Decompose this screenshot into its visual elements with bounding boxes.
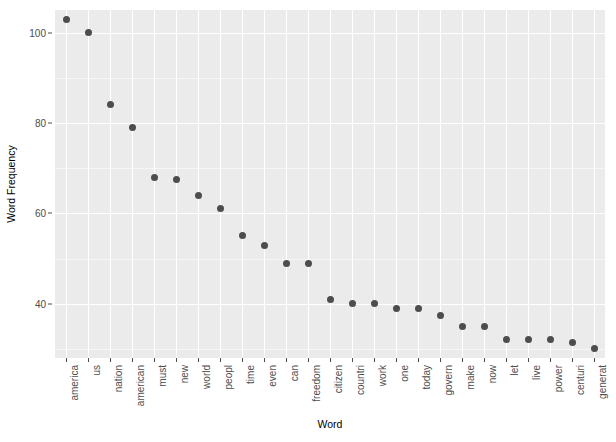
data-point [371,300,378,307]
x-tick-mark [550,358,551,362]
gridline-major-vertical [110,10,111,358]
x-tick-mark [506,358,507,362]
x-tick-label: let [510,365,520,376]
x-axis: americausnationamericanmustnewworldpeopl… [55,358,605,418]
x-tick-label: one [400,365,410,382]
gridline-major-vertical [198,10,199,358]
x-tick-label: peopl [224,365,234,389]
gridline-major-vertical [154,10,155,358]
x-tick-mark [308,358,309,362]
gridline-major-vertical [220,10,221,358]
x-tick-mark [396,358,397,362]
x-tick-label: make [466,365,476,389]
x-tick-label: can [290,365,300,381]
gridline-major-vertical [242,10,243,358]
y-tick-label: 100 [29,27,46,38]
x-tick-mark [198,358,199,362]
x-tick-mark [220,358,221,362]
data-point [591,345,598,352]
x-tick-label: power [554,365,564,392]
data-point [547,336,554,343]
x-tick-mark [66,358,67,362]
data-point [195,192,202,199]
data-point [85,29,92,36]
plot-panel [55,10,605,358]
x-tick-mark [572,358,573,362]
gridline-major-vertical [528,10,529,358]
data-point [459,323,466,330]
x-tick-mark [330,358,331,362]
gridline-major-vertical [594,10,595,358]
x-tick-mark [154,358,155,362]
data-point [217,205,224,212]
gridline-major-vertical [462,10,463,358]
gridline-major-vertical [264,10,265,358]
x-tick-label: america [70,365,80,401]
x-tick-label: freedom [312,365,322,402]
data-point [415,305,422,312]
data-point [283,260,290,267]
x-tick-label: must [158,365,168,387]
x-tick-label: citizen [334,365,344,393]
y-tick-mark [48,213,52,214]
data-point [107,101,114,108]
gridline-major-vertical [550,10,551,358]
y-tick-label: 60 [35,208,46,219]
data-point [129,124,136,131]
x-tick-label: now [488,365,498,383]
x-axis-title-text: Word [318,418,343,430]
data-point [63,16,70,23]
y-tick-mark [48,32,52,33]
x-tick-mark [176,358,177,362]
data-point [569,339,576,346]
gridline-major-vertical [88,10,89,358]
x-tick-label: time [246,365,256,384]
x-tick-label: work [378,365,388,386]
gridline-major-vertical [572,10,573,358]
gridline-major-vertical [506,10,507,358]
x-tick-mark [418,358,419,362]
x-tick-mark [242,358,243,362]
y-tick-label: 80 [35,117,46,128]
x-tick-mark [528,358,529,362]
data-point [173,176,180,183]
gridline-major-vertical [484,10,485,358]
x-tick-mark [462,358,463,362]
x-tick-label: govern [444,365,454,396]
data-point [239,232,246,239]
x-tick-label: american [136,365,146,406]
x-tick-label: us [92,365,102,376]
y-tick-label: 40 [35,298,46,309]
data-point [393,305,400,312]
x-tick-label: centuri [576,365,586,395]
data-point [327,296,334,303]
y-axis: 406080100 [0,0,55,368]
gridline-major-vertical [176,10,177,358]
gridline-major-vertical [440,10,441,358]
x-tick-mark [110,358,111,362]
gridline-major-vertical [286,10,287,358]
x-tick-label: world [202,365,212,389]
y-tick-mark [48,303,52,304]
x-tick-label: generat [598,365,608,399]
x-tick-label: countri [356,365,366,395]
x-tick-mark [440,358,441,362]
data-point [349,300,356,307]
gridline-major-vertical [330,10,331,358]
data-point [437,312,444,319]
x-tick-label: even [268,365,278,387]
data-point [305,260,312,267]
x-tick-mark [88,358,89,362]
gridline-major-vertical [308,10,309,358]
x-tick-mark [352,358,353,362]
y-tick-mark [48,122,52,123]
data-point [525,336,532,343]
x-tick-mark [286,358,287,362]
x-tick-mark [374,358,375,362]
x-tick-label: nation [114,365,124,392]
x-tick-mark [484,358,485,362]
x-tick-label: today [422,365,432,389]
x-axis-title: Word [55,418,605,430]
x-tick-label: live [532,365,542,380]
gridline-major-vertical [132,10,133,358]
